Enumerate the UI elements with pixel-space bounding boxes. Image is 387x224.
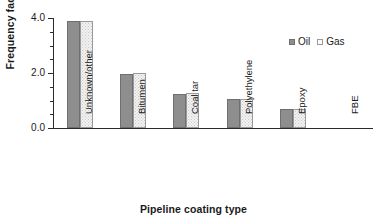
y-tick-minor (50, 87, 53, 88)
x-category-label: Epoxy (297, 88, 307, 114)
x-category-label: Coal tar (190, 81, 200, 114)
y-tick-minor (50, 114, 53, 115)
legend-swatch-oil-icon (289, 39, 295, 45)
plot-area: 0.02.04.0 (53, 18, 373, 128)
bar-oil[interactable] (227, 99, 240, 128)
x-category-label: FBE (350, 96, 360, 114)
x-category-label: Polyethylene (244, 60, 254, 114)
y-tick-minor (50, 32, 53, 33)
bar-oil[interactable] (173, 94, 186, 128)
bar-chart: Frequency factor 0.02.04.0 Unknown/other… (0, 0, 387, 224)
legend-swatch-gas-icon (317, 39, 323, 45)
y-tick-major (48, 18, 53, 19)
y-tick-minor (50, 101, 53, 102)
y-tick-label: 0.0 (5, 123, 45, 133)
y-tick-label: 2.0 (5, 68, 45, 78)
legend-label-gas: Gas (326, 36, 344, 47)
x-category-label: Bitumen (137, 79, 147, 114)
x-axis-line (53, 128, 373, 129)
x-axis-title: Pipeline coating type (0, 203, 387, 215)
x-category-label: Unknown/other (84, 50, 94, 114)
y-tick-minor (50, 46, 53, 47)
y-tick-major (48, 73, 53, 74)
bar-oil[interactable] (280, 109, 293, 128)
y-tick-minor (50, 59, 53, 60)
bar-oil[interactable] (120, 74, 133, 128)
bar-oil[interactable] (67, 21, 80, 128)
legend-label-oil: Oil (298, 36, 310, 47)
chart-legend: Oil Gas (289, 36, 345, 47)
y-axis-line (53, 18, 54, 128)
y-tick-label: 4.0 (5, 13, 45, 23)
legend-item-gas[interactable]: Gas (317, 36, 344, 47)
y-tick-major (48, 128, 53, 129)
legend-item-oil[interactable]: Oil (289, 36, 310, 47)
